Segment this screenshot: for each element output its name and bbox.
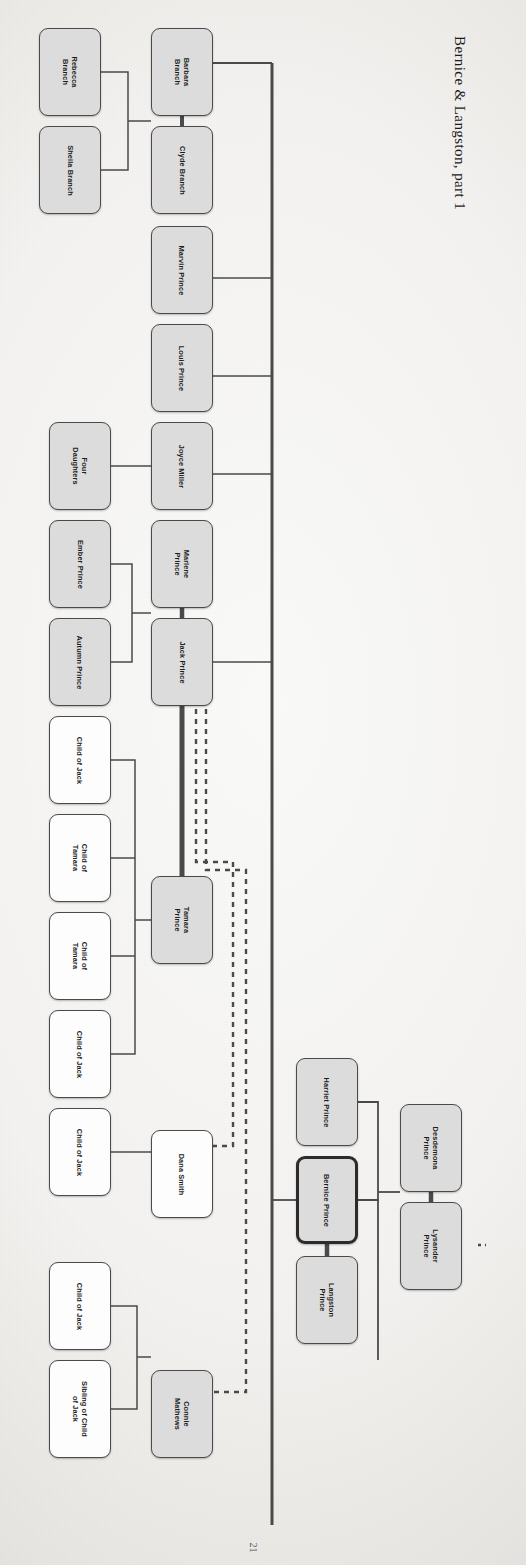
node-label: Four Daughters [71,447,89,484]
node-cjack1[interactable]: Child of Jack [49,716,111,804]
node-harriet[interactable]: Harriet Prince [296,1058,358,1146]
node-sibcjack[interactable]: Sibling of Child of Jack [49,1360,111,1458]
node-ctam1[interactable]: Child of Tamara [49,814,111,902]
diagram-canvas: Rebecca BranchSheila BranchBarbara Branc… [0,0,526,1565]
node-label: Child of Jack [75,736,84,783]
node-label: Harriet Prince [323,1077,332,1127]
relation-jack-connie [206,709,246,1392]
node-label: Autumn Prince [76,635,85,689]
node-label: Child of Jack [75,1128,84,1175]
node-bernice[interactable]: Bernice Prince [296,1156,358,1244]
node-marlene[interactable]: Marlene Prince [151,520,213,608]
page-title: Bernice & Langston, part 1 [451,36,468,210]
node-label: Desdemona Prince [422,1127,440,1170]
node-jack[interactable]: Jack Prince [151,618,213,706]
node-label: Jack Prince [177,641,186,683]
node-barbara[interactable]: Barbara Branch [151,28,213,116]
link-branch-siblings [101,72,128,170]
node-label: Child of Tamara [71,844,89,872]
node-label: Child of Jack [75,1282,84,1329]
node-connie[interactable]: Connie Mathews [151,1370,213,1458]
node-label: Rebecca Branch [61,56,79,87]
node-tamara[interactable]: Tamara Prince [151,876,213,964]
node-label: Connie Mathews [173,1398,191,1430]
link-ember-autumn-sibs [111,564,132,662]
node-dana[interactable]: Dana Smith [151,1130,213,1218]
node-desdemona[interactable]: Desdemona Prince [400,1104,462,1192]
node-label: Child of Jack [75,1030,84,1077]
node-clyde[interactable]: Clyde Branch [151,126,213,214]
node-marvin[interactable]: Marvin Prince [151,226,213,314]
node-label: Joyce Miller [177,444,186,488]
link-child4-bracket [111,920,135,1054]
node-label: Tamara Prince [173,907,191,933]
node-autumn[interactable]: Autumn Prince [49,618,111,706]
node-joyce[interactable]: Joyce Miller [151,422,213,510]
node-fourdau[interactable]: Four Daughters [49,422,111,510]
node-langston[interactable]: Langston Prince [296,1256,358,1344]
node-cjack4[interactable]: Child of Jack [49,1262,111,1350]
node-label: Bernice Prince [322,1173,331,1226]
node-louis[interactable]: Louis Prince [151,324,213,412]
link-connie-children-bracket [111,1306,137,1409]
node-cjack3[interactable]: Child of Jack [49,1108,111,1196]
node-label: Sheila Branch [66,145,75,196]
node-label: Lysander Prince [422,1229,440,1262]
node-label: Marlene Prince [173,550,191,579]
node-sheila[interactable]: Sheila Branch [39,126,101,214]
node-label: Marvin Prince [178,245,187,295]
node-cjack2[interactable]: Child of Jack [49,1010,111,1098]
node-label: Clyde Branch [178,146,187,195]
node-label: Louis Prince [178,345,187,391]
node-rebecca[interactable]: Rebecca Branch [39,28,101,116]
page-number: 21 [248,1543,259,1553]
node-lysander[interactable]: Lysander Prince [400,1202,462,1290]
link-harriet-bernice-bracket [358,1102,378,1200]
link-child1-bracket [111,760,135,920]
node-label: Ember Prince [75,540,84,589]
node-label: Dana Smith [178,1153,187,1195]
node-ctam2[interactable]: Child of Tamara [49,912,111,1000]
node-label: Sibling of Child of Jack [71,1381,89,1437]
node-label: Langston Prince [318,1283,336,1317]
node-ember[interactable]: Ember Prince [49,520,111,608]
node-label: Barbara Branch [173,58,191,87]
node-label: Child of Tamara [71,942,89,970]
